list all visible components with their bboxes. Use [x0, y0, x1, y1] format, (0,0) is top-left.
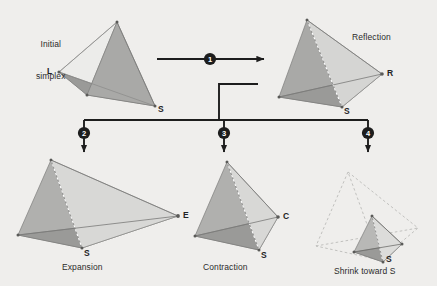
contraction-vertex-left: [194, 235, 197, 238]
step-marker-3-label: 3: [222, 129, 226, 138]
vertex-label-C: C: [283, 212, 289, 221]
shrink-caption: Shrink toward S: [334, 266, 396, 277]
simplex-flow-diagram: 1 2 3 4: [0, 0, 437, 286]
expansion-vertex-apex: [50, 159, 53, 162]
shrink-vertex-apex: [371, 215, 374, 218]
expansion-vertex-e: [176, 214, 180, 218]
bus-stem: [219, 84, 258, 120]
panel-initial-simplex: [57, 21, 156, 108]
panel-expansion: [17, 159, 180, 250]
vertex-label-S-reflection: S: [344, 107, 350, 116]
panel-shrink: [316, 172, 418, 264]
initial-vertex-back: [86, 94, 89, 97]
step-marker-1-label: 1: [208, 55, 212, 64]
arrow-step-1: 1: [157, 53, 264, 65]
panel-contraction: [194, 161, 280, 252]
initial-vertex-apex: [116, 21, 119, 24]
reflection-vertex-left: [278, 96, 281, 99]
initial-simplex-caption-line1: Initial: [36, 39, 66, 50]
reflection-vertex-r: [380, 72, 384, 76]
vertex-label-R: R: [387, 69, 393, 78]
diagram-canvas: 1 2 3 4: [0, 0, 437, 286]
shrink-vertex-left: [353, 251, 356, 254]
expansion-caption: Expansion: [62, 262, 103, 273]
contraction-vertex-c: [276, 215, 280, 219]
step-marker-2-label: 2: [82, 129, 86, 138]
vertex-label-S-shrink: S: [386, 255, 392, 264]
shrink-vertex-s: [382, 261, 385, 264]
expansion-vertex-left: [17, 234, 20, 237]
contraction-vertex-apex: [226, 161, 229, 164]
contraction-caption: Contraction: [203, 262, 248, 273]
shrink-vertex-right: [401, 243, 404, 246]
reflection-vertex-apex: [306, 19, 309, 22]
reflection-caption: Reflection: [352, 32, 391, 43]
initial-vertex-s: [154, 105, 157, 108]
vertex-label-E: E: [183, 211, 189, 220]
initial-simplex-caption: Initial simplex: [36, 18, 66, 102]
vertex-label-L: L: [47, 67, 52, 76]
vertex-label-S-contraction: S: [261, 251, 267, 260]
vertex-label-S-initial: S: [158, 105, 164, 114]
vertex-label-S-expansion: S: [84, 249, 90, 258]
